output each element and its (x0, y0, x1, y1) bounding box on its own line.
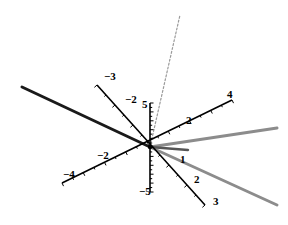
tick-mark (122, 115, 124, 116)
tick-label: 1 (180, 153, 186, 165)
tick-mark (94, 85, 97, 87)
tick-mark (158, 155, 160, 156)
tick-label: −2 (97, 149, 109, 161)
tick-label: −3 (104, 70, 116, 82)
tick-label: 4 (227, 88, 233, 100)
tick-label: 2 (186, 114, 192, 126)
tick-label: −2 (125, 93, 137, 105)
tick-label: 3 (213, 195, 219, 207)
origin-point (148, 145, 152, 149)
tick-label: −4 (63, 168, 75, 180)
tick-mark (232, 100, 234, 103)
tick-mark (112, 105, 115, 107)
tick-mark (130, 125, 133, 127)
tick-mark (184, 185, 187, 187)
tick-mark (166, 165, 169, 167)
tick-mark (168, 131, 170, 134)
tick-mark (202, 205, 205, 207)
tick-label: 2 (194, 173, 200, 185)
tick-mark (105, 162, 107, 165)
tick-mark (126, 152, 128, 155)
tick-label: −5 (139, 185, 151, 197)
vector-plot-3d: −3−2123−4−2245−5 (0, 0, 288, 225)
tick-mark (140, 135, 142, 136)
tick-label: 5 (142, 98, 148, 110)
tick-mark (176, 175, 178, 176)
tick-mark (83, 173, 85, 176)
tick-mark (211, 110, 213, 113)
tick-mark (194, 195, 196, 196)
tick-mark (104, 95, 106, 96)
tick-mark (62, 183, 64, 186)
